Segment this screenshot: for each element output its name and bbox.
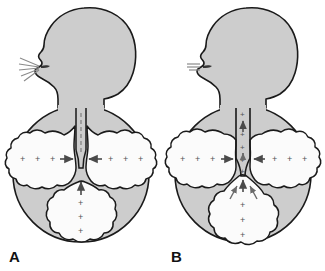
- svg-text:+: +: [108, 154, 113, 164]
- svg-text:+: +: [240, 143, 245, 152]
- panel-a: + + + + + + + + + A: [0, 0, 162, 271]
- svg-text:+: +: [195, 154, 200, 164]
- svg-text:+: +: [78, 212, 83, 222]
- svg-text:+: +: [240, 200, 245, 210]
- panel-b-label: B: [171, 248, 182, 265]
- svg-text:+: +: [287, 154, 292, 164]
- svg-text:+: +: [240, 215, 245, 225]
- svg-text:+: +: [180, 154, 185, 164]
- svg-text:+: +: [210, 154, 215, 164]
- panel-a-label: A: [9, 248, 20, 265]
- right-lung: [86, 126, 157, 189]
- abdomen-pressure-symbols: + + +: [78, 198, 83, 236]
- svg-text:+: +: [302, 154, 307, 164]
- figure-container: + + + + + + + + + A: [0, 0, 325, 271]
- svg-text:+: +: [123, 154, 128, 164]
- svg-text:+: +: [50, 154, 55, 164]
- svg-text:+: +: [78, 226, 83, 236]
- svg-text:+: +: [35, 154, 40, 164]
- svg-text:+: +: [272, 154, 277, 164]
- svg-text:+: +: [78, 198, 83, 208]
- svg-text:+: +: [20, 154, 25, 164]
- svg-text:+: +: [240, 167, 245, 176]
- panel-b: + + + + + + + +: [162, 0, 324, 271]
- left-lung: [5, 126, 76, 189]
- abdomen-pressure-symbols: + + +: [240, 200, 245, 240]
- svg-text:+: +: [138, 154, 143, 164]
- svg-text:+: +: [240, 230, 245, 240]
- svg-text:+: +: [240, 110, 245, 119]
